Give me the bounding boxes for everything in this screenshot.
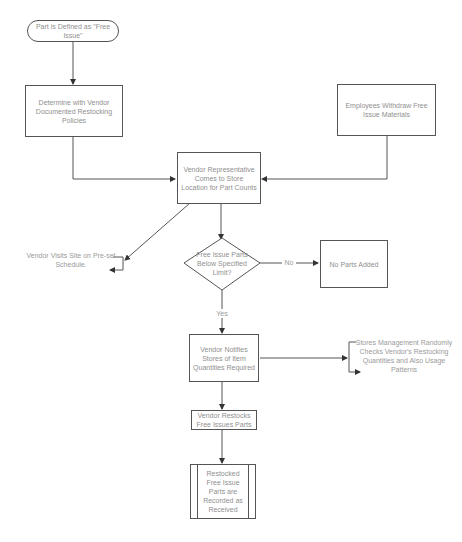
recorded-received-node: Restocked Free Issue Parts are Recorded … <box>190 464 256 519</box>
no-parts-node: No Parts Added <box>320 240 388 288</box>
edge-label-yes: Yes <box>213 309 231 318</box>
decision-label: Free Issue Parts Below Specified Limit? <box>196 251 247 276</box>
decision-label-wrap: Free Issue Parts Below Specified Limit? <box>191 250 253 277</box>
determine-policies-label: Determine with Vendor Documented Restock… <box>29 98 119 125</box>
recorded-received-label: Restocked Free Issue Parts are Recorded … <box>199 469 247 514</box>
start-node-label: Part is Defined as "Free Issue" <box>31 22 115 40</box>
stores-management-annotation: Stores Management Randomly Checks Vendor… <box>352 338 456 374</box>
vendor-restocks-node: Vendor Restocks Free Issues Parts <box>191 410 257 430</box>
determine-policies-node: Determine with Vendor Documented Restock… <box>25 85 123 137</box>
vendor-notifies-node: Vendor Notifies Stores of Item Quantitie… <box>189 334 259 382</box>
vendor-visits-annotation: Vendor Visits Site on Pre-set Schedule. <box>22 251 120 269</box>
start-node: Part is Defined as "Free Issue" <box>27 20 119 42</box>
edge-label-no: No <box>282 258 296 267</box>
vendor-comes-label: Vendor Representative Comes to Store Loc… <box>181 165 257 192</box>
vendor-comes-node: Vendor Representative Comes to Store Loc… <box>177 152 261 204</box>
employees-withdraw-node: Employees Withdraw Free Issue Materials <box>337 84 436 136</box>
stores-management-label: Stores Management Randomly Checks Vendor… <box>356 339 453 373</box>
employees-withdraw-label: Employees Withdraw Free Issue Materials <box>341 101 432 119</box>
vendor-restocks-label: Vendor Restocks Free Issues Parts <box>193 411 255 429</box>
no-parts-label: No Parts Added <box>329 260 378 269</box>
vendor-notifies-label: Vendor Notifies Stores of Item Quantitie… <box>193 345 255 372</box>
vendor-visits-label: Vendor Visits Site on Pre-set Schedule. <box>27 252 116 268</box>
